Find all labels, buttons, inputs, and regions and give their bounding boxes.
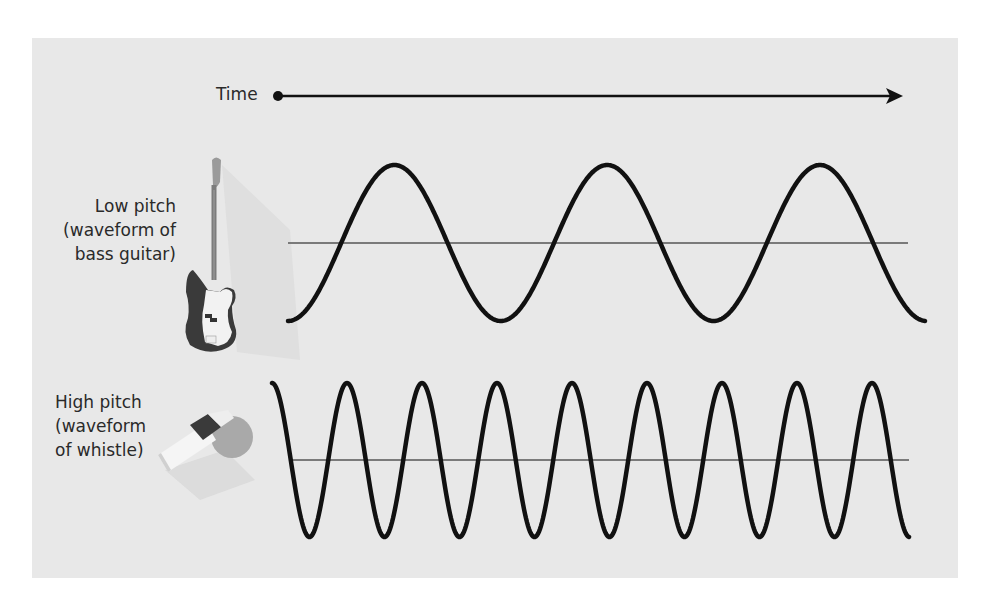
- high-pitch-waveform: [272, 383, 909, 537]
- low-pitch-waveform: [288, 165, 925, 321]
- bass-guitar-icon: [185, 158, 300, 361]
- time-axis-arrow: [273, 88, 903, 104]
- whistle-icon: [158, 410, 255, 500]
- diagram-artwork: [0, 0, 989, 596]
